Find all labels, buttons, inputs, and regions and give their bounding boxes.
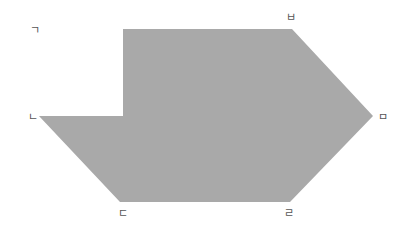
vertex-label-giyeok: ㄱ [30, 24, 40, 37]
vertex-label-digeut: ㄷ [118, 207, 128, 220]
vertex-label-mieum: ㅁ [378, 111, 388, 124]
vertex-label-rieul: ㄹ [284, 207, 294, 220]
gray-polygon [39, 29, 373, 202]
vertex-label-bieup: ㅂ [286, 11, 296, 24]
vertex-label-nieun: ㄴ [28, 111, 38, 124]
diagram-canvas: ㄱ ㄴ ㄷ ㄹ ㅁ ㅂ [0, 0, 410, 236]
